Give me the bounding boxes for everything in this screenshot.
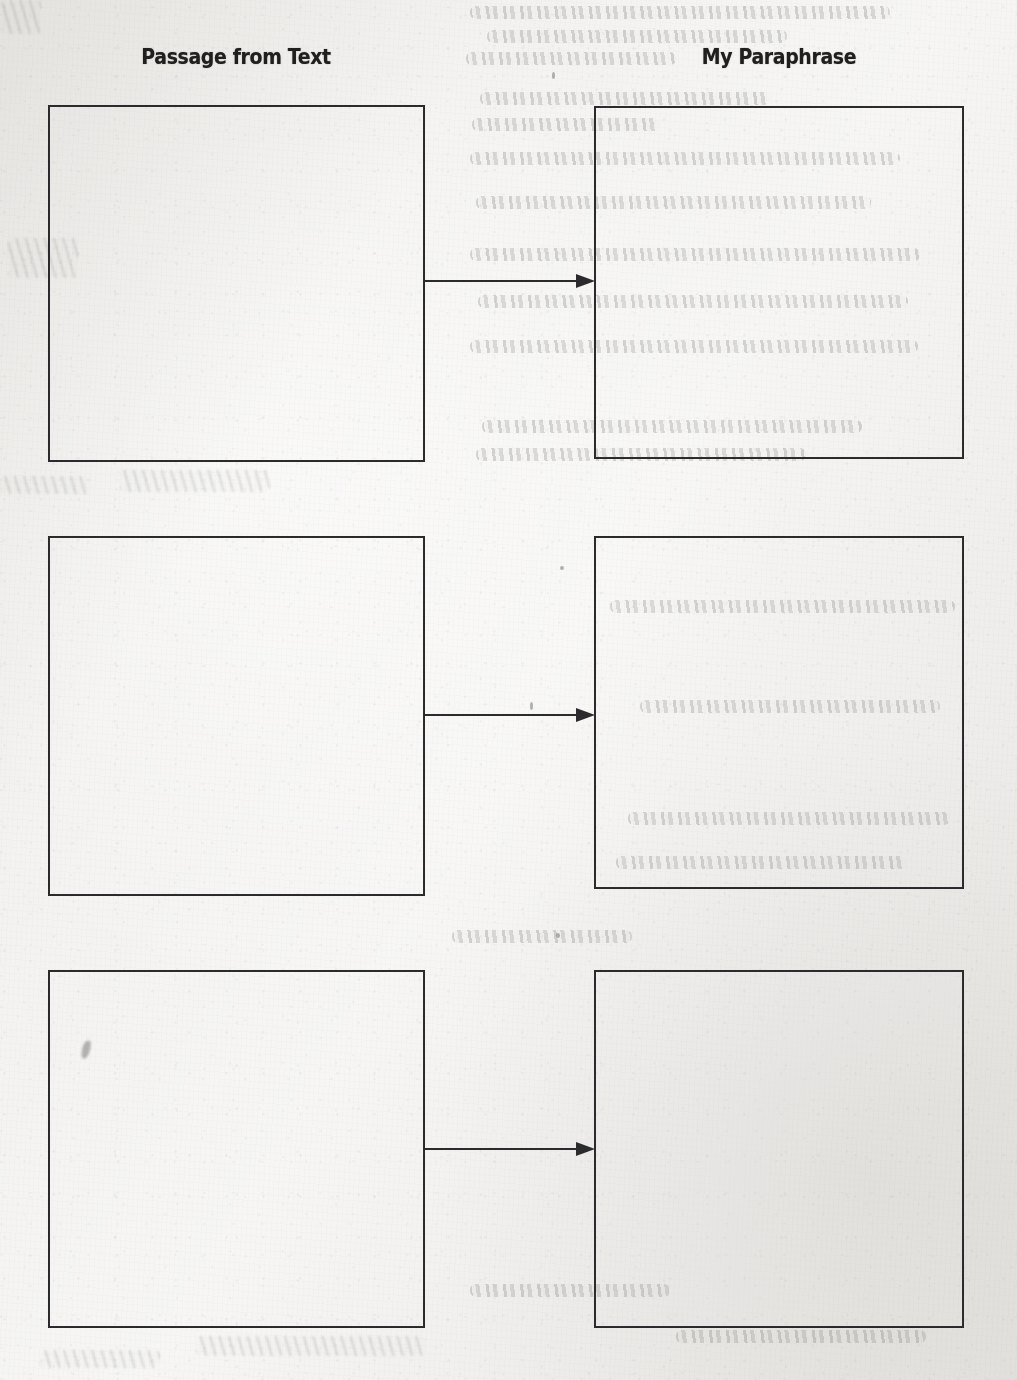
paraphrase-box-row-2[interactable] <box>594 536 964 889</box>
arrow-shaft <box>425 714 577 716</box>
connector-arrow-row-2 <box>425 708 595 722</box>
paper-speck <box>552 72 555 79</box>
connector-arrow-row-1 <box>425 274 595 288</box>
passage-box-row-3[interactable] <box>48 970 425 1328</box>
passage-box-row-2[interactable] <box>48 536 425 896</box>
paper-speck <box>560 566 564 570</box>
paper-speck <box>556 933 560 938</box>
arrow-head-icon <box>576 708 595 722</box>
column-header-passage: Passage from Text <box>101 45 371 69</box>
arrow-head-icon <box>576 274 595 288</box>
arrow-head-icon <box>576 1142 595 1156</box>
passage-box-row-1[interactable] <box>48 105 425 462</box>
paraphrase-box-row-1[interactable] <box>594 106 964 459</box>
column-header-paraphrase: My Paraphrase <box>644 45 914 69</box>
connector-arrow-row-3 <box>425 1142 595 1156</box>
arrow-shaft <box>425 280 577 282</box>
arrow-shaft <box>425 1148 577 1150</box>
paraphrase-box-row-3[interactable] <box>594 970 964 1328</box>
worksheet-page: Passage from Text My Paraphrase <box>0 0 1017 1380</box>
